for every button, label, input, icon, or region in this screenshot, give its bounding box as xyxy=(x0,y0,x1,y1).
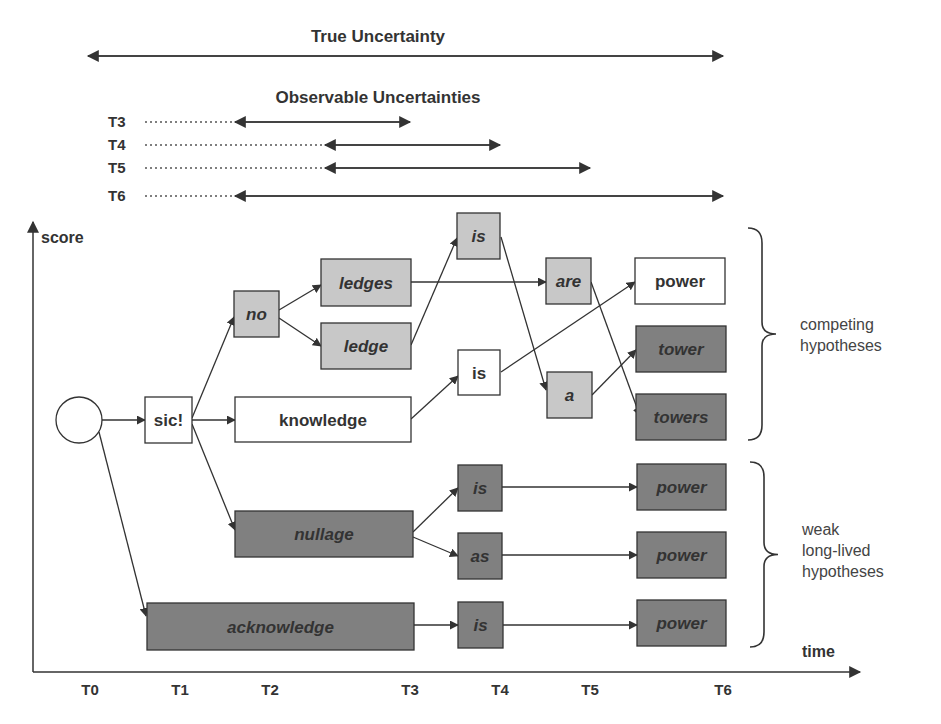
observable-uncertainties-title: Observable Uncertainties xyxy=(275,88,480,107)
edge-sic-to-nullage xyxy=(192,424,235,530)
node-a: a xyxy=(547,372,592,418)
node-label: acknowledge xyxy=(227,618,334,637)
node-ledges: ledges xyxy=(321,259,411,306)
observable-row-t3: T3 xyxy=(108,113,410,130)
node-is_mid: is xyxy=(458,350,500,395)
tick-label-t2: T2 xyxy=(261,681,279,698)
node-label: ledges xyxy=(339,274,393,293)
node-power_w2: power xyxy=(637,532,726,578)
brace-label-line: hypotheses xyxy=(800,337,882,354)
edge-no-to-ledge xyxy=(279,318,321,346)
tick-label-t6: T6 xyxy=(714,681,732,698)
node-is_w3: is xyxy=(458,602,503,648)
node-label: is xyxy=(471,227,485,246)
edge-knowledge-to-is_mid xyxy=(411,376,458,419)
observable-row-label: T6 xyxy=(108,187,126,204)
tick-label-t1: T1 xyxy=(171,681,189,698)
curly-brace-icon xyxy=(748,228,776,440)
observable-uncertainty-rows: T3T4T5T6 xyxy=(108,113,723,204)
node-label: sic! xyxy=(154,411,183,430)
tick-label-t5: T5 xyxy=(581,681,599,698)
observable-row-t6: T6 xyxy=(108,187,723,204)
node-label: is xyxy=(473,479,487,498)
node-are: are xyxy=(546,258,591,304)
edge-start-to-acknowledge xyxy=(99,432,146,616)
node-label: power xyxy=(655,478,707,497)
edge-nullage-to-as_w2 xyxy=(413,537,458,556)
brace-competing: competinghypotheses xyxy=(748,228,882,440)
node-label: tower xyxy=(658,340,705,359)
hypothesis-nodes: sic!noknowledgenullageacknowledgeledgesl… xyxy=(145,213,726,650)
true-uncertainty-title: True Uncertainty xyxy=(311,27,446,46)
edge-no-to-ledges xyxy=(279,285,321,310)
start-node-circle xyxy=(56,397,102,443)
node-tower: tower xyxy=(636,326,726,372)
node-label: is xyxy=(473,616,487,635)
node-towers: towers xyxy=(636,394,726,440)
node-label: a xyxy=(565,386,574,405)
brace-label-line: competing xyxy=(800,316,874,333)
node-label: power xyxy=(655,272,705,291)
node-sic: sic! xyxy=(145,397,192,443)
node-label: ledge xyxy=(344,337,388,356)
node-ledge: ledge xyxy=(321,323,411,369)
observable-row-label: T5 xyxy=(108,159,126,176)
observable-row-t5: T5 xyxy=(108,159,590,176)
node-label: towers xyxy=(654,408,709,427)
time-tick-labels: T0T1T2T3T4T5T6 xyxy=(81,681,732,698)
node-nullage: nullage xyxy=(235,511,413,557)
brace-label-line: weak xyxy=(801,521,840,538)
edge-ledge-to-is_top xyxy=(411,238,457,345)
edge-are-to-towers xyxy=(591,282,640,416)
time-axis-label: time xyxy=(802,643,835,660)
tick-label-t4: T4 xyxy=(491,681,509,698)
node-knowledge: knowledge xyxy=(235,397,411,442)
node-label: are xyxy=(556,272,582,291)
node-label: power xyxy=(655,546,707,565)
node-power_top: power xyxy=(635,258,725,304)
node-power_w1: power xyxy=(637,464,726,510)
node-label: nullage xyxy=(294,525,354,544)
node-label: as xyxy=(471,547,490,566)
edge-nullage-to-is_w1 xyxy=(413,488,458,532)
node-label: knowledge xyxy=(279,411,367,430)
observable-row-label: T3 xyxy=(108,113,126,130)
node-no: no xyxy=(234,291,279,337)
node-is_top: is xyxy=(457,213,500,259)
observable-row-t4: T4 xyxy=(108,136,500,153)
node-acknowledge: acknowledge xyxy=(147,603,414,650)
node-power_w3: power xyxy=(637,600,726,646)
node-label: power xyxy=(655,614,707,633)
node-label: is xyxy=(472,364,486,383)
edge-sic-to-no xyxy=(192,317,234,418)
node-as_w2: as xyxy=(458,533,502,579)
score-axis-label: score xyxy=(41,229,84,246)
tick-label-t0: T0 xyxy=(81,681,99,698)
node-label: no xyxy=(246,305,267,324)
score-axis: score xyxy=(33,222,84,672)
hypothesis-braces: competinghypothesesweaklong-livedhypothe… xyxy=(748,228,884,647)
uncertainty-hypotheses-diagram: True Uncertainty Observable Uncertaintie… xyxy=(0,0,941,724)
node-is_w1: is xyxy=(458,465,502,511)
brace-label-line: long-lived xyxy=(802,542,870,559)
observable-row-label: T4 xyxy=(108,136,126,153)
brace-label-line: hypotheses xyxy=(802,563,884,580)
curly-brace-icon xyxy=(750,462,778,647)
brace-weak: weaklong-livedhypotheses xyxy=(750,462,884,647)
tick-label-t3: T3 xyxy=(401,681,419,698)
